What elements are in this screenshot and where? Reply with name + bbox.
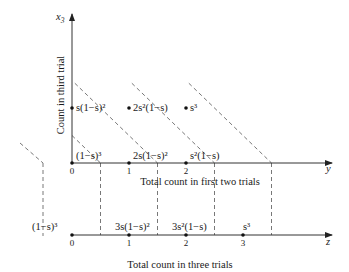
z-probability-label: 3s(1−s)²	[115, 221, 150, 233]
point-probability-label: s²(1−s)	[190, 150, 220, 162]
z-probability-label: (1−s)³	[32, 221, 57, 233]
outcome-point	[70, 161, 74, 165]
y-axis-label: y	[325, 163, 331, 174]
outcome-point	[127, 161, 131, 165]
point-probability-label: (1−s)³	[76, 150, 101, 162]
diagonal-projection-line	[20, 143, 43, 163]
z-tick-label: 2	[184, 238, 189, 248]
z-axis-label: z	[325, 236, 330, 247]
point-probability-label: 2s(1−s)²	[133, 150, 168, 162]
y-tick-label: 2	[184, 166, 189, 176]
outcome-point	[70, 106, 74, 110]
z-axis-title: Total count in three trials	[127, 259, 232, 270]
z-tick-label: 0	[70, 238, 75, 248]
point-probability-label: s(1−s)²	[76, 102, 106, 114]
y-tick-label: 1	[127, 166, 132, 176]
y-tick-label: 0	[70, 166, 75, 176]
outcome-point	[184, 106, 188, 110]
probability-projection-diagram: x3 y z Count in third trial Total count …	[0, 0, 349, 272]
point-probability-label: 2s²(1−s)	[133, 102, 168, 114]
z-outcome-point	[127, 233, 131, 237]
z-probability-label: 3s²(1−s)	[172, 221, 207, 233]
z-outcome-point	[70, 233, 74, 237]
z-tick-label: 3	[241, 238, 246, 248]
z-axis-ticks: 0123	[70, 238, 246, 248]
y-axis-title: Total count in first two trials	[140, 176, 260, 187]
z-outcome-point	[184, 233, 188, 237]
outcome-point	[127, 106, 131, 110]
x3-axis-title: Count in third trial	[55, 56, 66, 135]
y-axis-ticks: 012	[70, 166, 189, 176]
point-probability-label: s³	[190, 102, 197, 113]
z-outcome-point	[241, 233, 245, 237]
outcome-point	[184, 161, 188, 165]
z-tick-label: 1	[127, 238, 132, 248]
x3-axis-label: x3	[55, 11, 65, 25]
z-probability-label: s³	[243, 221, 250, 232]
